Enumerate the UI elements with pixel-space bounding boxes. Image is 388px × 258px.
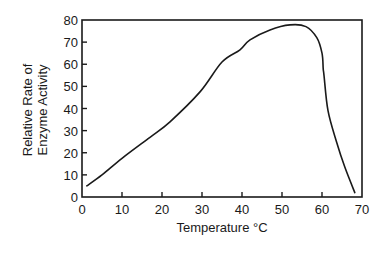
enzyme-activity-curve — [87, 25, 355, 193]
y-tick-label: 30 — [64, 124, 78, 139]
x-tick-label: 10 — [115, 202, 129, 217]
y-tick-label: 50 — [64, 79, 78, 94]
x-tick-label: 0 — [78, 202, 85, 217]
y-axis-title-line-1: Relative Rate of — [20, 63, 35, 156]
x-axis-ticks: 010203040506070 — [78, 192, 369, 217]
x-tick-label: 70 — [355, 202, 369, 217]
y-tick-label: 0 — [71, 190, 78, 205]
y-tick-label: 80 — [64, 13, 78, 28]
y-tick-label: 60 — [64, 57, 78, 72]
y-axis-ticks: 01020304050607080 — [64, 13, 87, 205]
y-tick-label: 40 — [64, 102, 78, 117]
x-tick-label: 60 — [315, 202, 329, 217]
y-axis-title-line-2: Enzyme Activity — [35, 64, 50, 156]
x-tick-label: 30 — [195, 202, 209, 217]
x-axis-title: Temperature °C — [176, 220, 267, 235]
chart-canvas: 010203040506070 01020304050607080 Temper… — [0, 0, 388, 258]
y-tick-label: 10 — [64, 168, 78, 183]
x-tick-label: 20 — [155, 202, 169, 217]
y-axis-title: Relative Rate of Enzyme Activity — [20, 63, 50, 156]
y-tick-label: 70 — [64, 35, 78, 50]
x-tick-label: 50 — [275, 202, 289, 217]
y-tick-label: 20 — [64, 146, 78, 161]
x-tick-label: 40 — [235, 202, 249, 217]
